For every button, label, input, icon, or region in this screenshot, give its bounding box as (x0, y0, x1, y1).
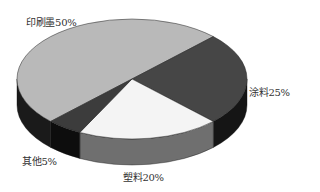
label-printing-ink: 印刷墨50% (26, 14, 76, 29)
label-other: 其他5% (22, 153, 57, 168)
label-plastics: 塑料20% (123, 169, 164, 184)
label-coatings: 涂料25% (249, 84, 290, 99)
